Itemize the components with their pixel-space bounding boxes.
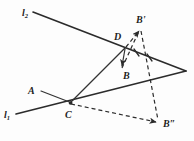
label-point-a: A: [28, 86, 35, 96]
label-point-c: C: [65, 110, 72, 120]
segment-a-c: [41, 91, 72, 103]
label-point-b-prime: B': [136, 15, 145, 25]
arrow-c-to-b-double-prime: [71, 104, 156, 122]
label-point-b: B: [123, 71, 130, 81]
vertex-dot-c: [69, 101, 73, 105]
arrow-d-to-b-prime: [126, 31, 139, 47]
dashed-b-prime-to-b-double-prime: [141, 31, 158, 120]
line-l2: [33, 12, 186, 71]
arrow-d-to-b: [122, 49, 125, 66]
label-line-l2: l2: [22, 8, 28, 18]
geometry-diagram: l2 l1 A C D B' B B″: [0, 0, 194, 141]
label-line-l1: l1: [4, 110, 10, 120]
label-point-d: D: [114, 32, 121, 42]
segment-c-d: [70, 48, 125, 103]
label-point-b-double-prime: B″: [163, 119, 175, 129]
line-l1: [16, 71, 186, 114]
